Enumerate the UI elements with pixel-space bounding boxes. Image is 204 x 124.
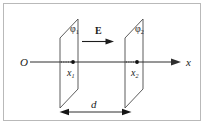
- point-x1-marker: [71, 60, 75, 64]
- point-x2-subscript: 2: [135, 72, 138, 79]
- x-axis-label: x: [185, 56, 191, 68]
- plate-2-potential-subscript: 2: [141, 28, 144, 35]
- point-x2-marker: [135, 60, 139, 64]
- figure-container: O x E d φ1 φ2 x1 x2: [0, 0, 204, 124]
- plate-1-potential-subscript: 1: [76, 28, 79, 35]
- field-label: E: [95, 25, 102, 36]
- capacitor-diagram: O x E d φ1 φ2 x1 x2: [0, 0, 204, 124]
- distance-label: d: [91, 98, 97, 110]
- point-x1-subscript: 1: [71, 72, 74, 79]
- origin-label: O: [20, 56, 28, 68]
